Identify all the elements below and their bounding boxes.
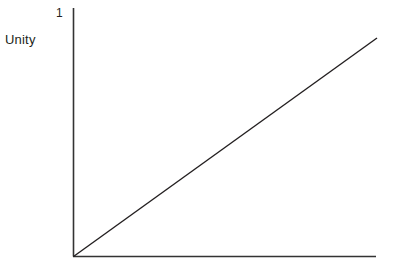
y-axis-title: Unity <box>5 33 36 46</box>
plot-canvas <box>0 0 393 269</box>
y-axis-tick-label-1: 1 <box>56 7 63 19</box>
chart-figure: Unity 1 <box>0 0 393 269</box>
plot-background <box>0 0 393 269</box>
